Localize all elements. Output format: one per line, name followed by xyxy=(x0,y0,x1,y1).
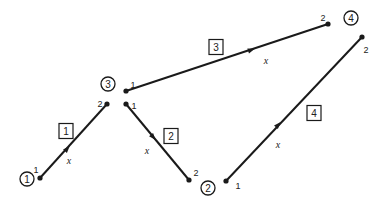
local-x-axis-label: x xyxy=(263,55,269,66)
local-node-2-label: 2 xyxy=(193,168,198,178)
local-node-1-label: 1 xyxy=(33,165,38,175)
element-1: 1x12 xyxy=(33,99,109,181)
end-node-dot xyxy=(325,21,330,26)
global-node-number: 4 xyxy=(348,13,354,24)
end-node-dot xyxy=(104,101,109,106)
local-node-2-label: 2 xyxy=(320,13,325,23)
local-node-2-label: 2 xyxy=(363,45,368,55)
element-line xyxy=(126,24,328,91)
element-line xyxy=(226,37,362,181)
end-node-dot xyxy=(359,34,364,39)
local-x-axis-label: x xyxy=(66,155,72,166)
element-line xyxy=(40,104,107,178)
global-node-number: 3 xyxy=(105,79,111,90)
end-node-dot xyxy=(123,101,128,106)
local-x-axis-label: x xyxy=(275,139,281,150)
local-node-1-label: 1 xyxy=(130,80,135,90)
diagram-svg: 1x122x123x124x121234 xyxy=(0,0,382,204)
element-number: 4 xyxy=(311,108,317,119)
end-node-dot xyxy=(223,178,228,183)
local-node-1-label: 1 xyxy=(131,101,136,111)
element-2: 2x12 xyxy=(123,101,198,183)
global-node-number: 1 xyxy=(24,174,30,185)
element-number: 2 xyxy=(168,131,174,142)
end-node-dot xyxy=(186,177,191,182)
global-node-2: 2 xyxy=(201,181,215,195)
element-number: 3 xyxy=(213,42,219,53)
global-node-number: 2 xyxy=(205,183,211,194)
end-node-dot xyxy=(123,88,128,93)
end-node-dot xyxy=(37,175,42,180)
element-line xyxy=(126,104,189,180)
local-x-axis-label: x xyxy=(144,145,150,156)
global-node-3: 3 xyxy=(101,77,115,91)
element-3: 3x12 xyxy=(123,13,330,94)
direction-arrow-icon xyxy=(247,48,254,53)
local-node-2-label: 2 xyxy=(97,99,102,109)
global-node-1: 1 xyxy=(20,172,34,186)
local-node-1-label: 1 xyxy=(235,181,240,191)
truss-element-diagram: 1x122x123x124x121234 xyxy=(0,0,382,204)
element-4: 4x12 xyxy=(223,34,368,191)
element-number: 1 xyxy=(63,126,69,137)
global-node-4: 4 xyxy=(344,11,358,25)
